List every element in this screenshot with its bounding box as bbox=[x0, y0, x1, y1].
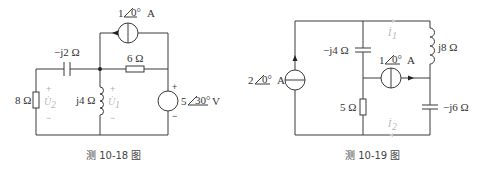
u2-sub: 2 bbox=[51, 99, 56, 110]
arrow-i2-icon bbox=[389, 133, 393, 137]
u1-sub: 1 bbox=[115, 99, 120, 110]
vs-plus: + bbox=[172, 82, 177, 92]
voltage-source-unit: V bbox=[212, 95, 220, 107]
u1-plus: + bbox=[110, 84, 115, 94]
i1-sub: 1 bbox=[392, 30, 397, 41]
current-source-angle: 0° bbox=[131, 6, 141, 18]
u2-plus: + bbox=[46, 84, 51, 94]
voltage-source-angle: 30° bbox=[195, 94, 210, 106]
junction-node bbox=[98, 67, 102, 71]
current-source-1a bbox=[112, 23, 138, 43]
current-source-1a bbox=[381, 68, 414, 88]
arrow-up-icon bbox=[293, 55, 298, 61]
current-source-left-angle: 0° bbox=[262, 73, 272, 85]
figure-10-18: 1 0° A −j2 Ω 6 Ω 8 Ω + U̇ 2 − j4 Ω + U̇ … bbox=[15, 6, 220, 161]
capacitor-j6-label: −j6 Ω bbox=[443, 101, 469, 113]
resistor-5-label: 5 Ω bbox=[340, 101, 356, 113]
current-source-mid-angle: 0° bbox=[392, 53, 402, 65]
vs-minus: − bbox=[172, 111, 177, 121]
current-source-left-unit: A bbox=[277, 74, 285, 86]
caption-10-19: 测 10-19 图 bbox=[345, 149, 400, 161]
capacitor-j4-label: −j4 Ω bbox=[323, 44, 349, 56]
current-source-unit: A bbox=[147, 7, 155, 19]
inductor-j4 bbox=[100, 87, 104, 115]
resistor-6-label: 6 Ω bbox=[127, 52, 143, 64]
voltage-source bbox=[158, 91, 178, 111]
current-source-mid-unit: A bbox=[407, 54, 415, 66]
u2-minus: − bbox=[46, 113, 51, 123]
inductor-label: j4 Ω bbox=[75, 94, 95, 106]
i2-sub: 2 bbox=[392, 121, 397, 132]
capacitor-j4 bbox=[355, 48, 371, 52]
resistor-6ohm bbox=[126, 66, 144, 72]
current-source-mid-value: 1 bbox=[379, 54, 385, 66]
circuit-diagrams: 1 0° A −j2 Ω 6 Ω 8 Ω + U̇ 2 − j4 Ω + U̇ … bbox=[0, 0, 480, 171]
capacitor-j6 bbox=[422, 105, 438, 109]
resistor-5ohm bbox=[360, 99, 366, 115]
capacitor-j2 bbox=[64, 62, 70, 76]
inductor-j8 bbox=[430, 28, 435, 64]
arrow-left-icon bbox=[112, 31, 118, 36]
capacitor-label: −j2 Ω bbox=[54, 46, 80, 58]
inductor-j8-label: j8 Ω bbox=[437, 41, 457, 53]
figure-10-19: 2 0° A −j4 Ω 5 Ω 1 0° A j8 Ω bbox=[248, 19, 469, 161]
current-source-value: 1 bbox=[118, 7, 124, 19]
u1-minus: − bbox=[110, 113, 115, 123]
resistor-8-label: 8 Ω bbox=[15, 94, 31, 106]
arrow-i1-icon bbox=[392, 19, 396, 23]
current-source-2a bbox=[285, 55, 305, 90]
current-source-left-value: 2 bbox=[248, 74, 254, 86]
voltage-source-value: 5 bbox=[181, 95, 187, 107]
arrow-right-icon bbox=[408, 76, 414, 81]
caption-10-18: 测 10-18 图 bbox=[86, 149, 141, 161]
resistor-8ohm bbox=[33, 92, 39, 108]
